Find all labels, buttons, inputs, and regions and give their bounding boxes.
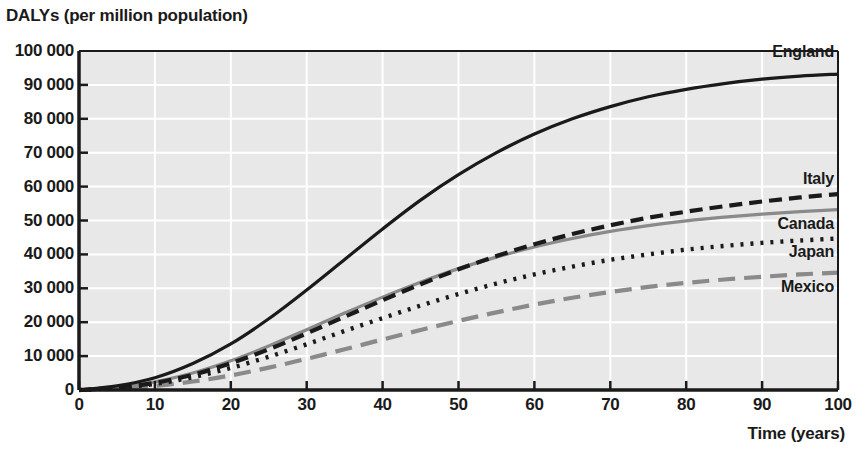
- x-tick-label: 70: [601, 395, 619, 415]
- x-tick-label: 90: [753, 395, 771, 415]
- x-tick-label: 20: [222, 395, 240, 415]
- y-axis-title: DALYs (per million population): [6, 6, 248, 26]
- y-tick-label: 90 000: [0, 75, 74, 95]
- chart-figure: DALYs (per million population) Time (yea…: [0, 0, 855, 452]
- y-tick-label: 80 000: [0, 109, 74, 129]
- x-tick-label: 60: [525, 395, 543, 415]
- x-tick-label: 40: [373, 395, 391, 415]
- x-axis-title: Time (years): [748, 424, 845, 444]
- x-tick-label: 30: [298, 395, 316, 415]
- x-tick-label: 100: [824, 395, 851, 415]
- y-tick-label: 10 000: [0, 346, 74, 366]
- series-label-japan: Japan: [789, 243, 834, 261]
- x-tick-label: 50: [449, 395, 467, 415]
- y-tick-label: 50 000: [0, 211, 74, 231]
- series-label-italy: Italy: [803, 170, 834, 188]
- plot-canvas: [0, 0, 855, 452]
- y-tick-label: 100 000: [0, 41, 74, 61]
- y-tick-label: 30 000: [0, 278, 74, 298]
- x-tick-label: 0: [74, 395, 83, 415]
- y-tick-label: 60 000: [0, 177, 74, 197]
- y-tick-label: 40 000: [0, 244, 74, 264]
- series-label-canada: Canada: [777, 215, 834, 233]
- y-tick-label: 70 000: [0, 143, 74, 163]
- series-label-england: England: [772, 43, 834, 61]
- y-tick-label: 20 000: [0, 312, 74, 332]
- x-tick-label: 80: [677, 395, 695, 415]
- series-label-mexico: Mexico: [781, 278, 834, 296]
- x-tick-label: 10: [146, 395, 164, 415]
- y-tick-label: 0: [0, 380, 74, 400]
